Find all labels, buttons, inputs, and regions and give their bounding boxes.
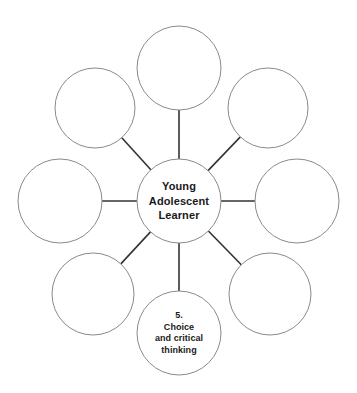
spoke-to-top-left [122,138,151,170]
circles-group [18,26,339,375]
radial-diagram: 5.Choiceand criticalthinkingYoungAdolesc… [0,0,357,393]
satellite-circle-bottom-left[interactable] [52,253,134,335]
satellite-circle-bottom-choice-and-critical-thinking[interactable] [137,291,221,375]
satellite-circle-top[interactable] [137,26,221,110]
satellite-circle-bottom-right[interactable] [229,253,311,335]
diagram-canvas [0,0,357,393]
spoke-to-bottom-left [121,232,151,264]
spoke-to-top-right [208,137,240,171]
spoke-to-bottom-right [208,231,241,265]
satellite-circle-left[interactable] [18,159,102,243]
satellite-circle-top-right[interactable] [228,68,308,148]
satellite-circle-top-left[interactable] [55,68,135,148]
satellite-circle-right[interactable] [255,159,339,243]
center-circle-young-adolescent-learner[interactable] [137,159,221,243]
